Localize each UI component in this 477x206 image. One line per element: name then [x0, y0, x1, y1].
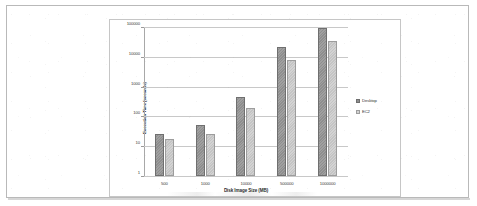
- y-tick-label: 1: [138, 170, 140, 175]
- legend-item[interactable]: Desktop: [356, 98, 377, 103]
- chart-container: Execution Time (seconds) 110100100010000…: [109, 19, 401, 197]
- gridline: [144, 176, 348, 177]
- bar-group: [266, 27, 307, 176]
- legend-label: Desktop: [362, 98, 377, 103]
- y-tick-label: 100000: [127, 21, 140, 26]
- legend-swatch-icon: [356, 110, 360, 114]
- bar: [165, 139, 174, 176]
- plot-area: 110100100010000100000 500100010000500000…: [144, 28, 348, 177]
- y-tick-label: 10: [136, 140, 140, 145]
- bar: [155, 134, 164, 176]
- bar: [318, 28, 327, 176]
- legend-label: EC2: [362, 109, 370, 114]
- x-tick-label: 500: [161, 181, 168, 186]
- bar-group: [307, 27, 348, 176]
- bar-group: [226, 27, 267, 176]
- bar-group: [144, 27, 185, 176]
- x-tick-label: 1000: [201, 181, 210, 186]
- bar: [236, 97, 245, 176]
- bar: [277, 47, 286, 176]
- legend-item[interactable]: EC2: [356, 109, 377, 114]
- bar: [196, 125, 205, 176]
- y-tick-label: 1000: [131, 80, 140, 85]
- bar-group: [185, 27, 226, 176]
- bar: [328, 41, 337, 176]
- chart-legend: DesktopEC2: [356, 98, 377, 114]
- bar: [246, 108, 255, 176]
- scanned-page-frame: Execution Time (seconds) 110100100010000…: [6, 5, 469, 198]
- x-tick-label: 1000000: [320, 181, 336, 186]
- x-tick-label: 500000: [280, 181, 293, 186]
- bar: [206, 134, 215, 176]
- y-tick-label: 100: [133, 110, 140, 115]
- bar: [287, 60, 296, 176]
- x-tick-label: 10000: [240, 181, 251, 186]
- plot-inner: 110100100010000100000 500100010000500000…: [144, 28, 348, 177]
- scan-smudge: [167, 192, 317, 197]
- legend-swatch-icon: [356, 99, 360, 103]
- y-tick-mark: [141, 176, 144, 177]
- y-tick-label: 10000: [129, 50, 140, 55]
